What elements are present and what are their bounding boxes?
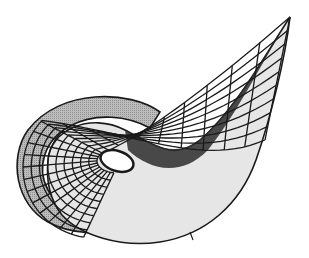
surface-figure — [0, 0, 309, 258]
